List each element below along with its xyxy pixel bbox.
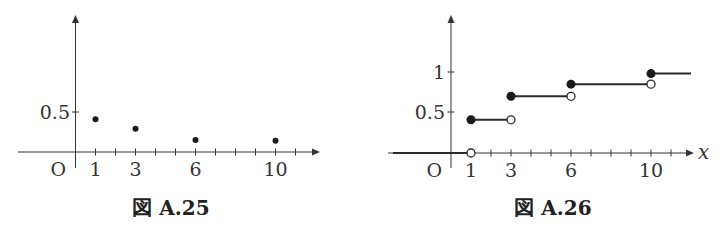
y-label-0.5: 0.5 [40,101,70,123]
x-label-6: 6 [189,158,201,180]
open-endpoint-icon [567,92,575,100]
y-label-0.5: 0.5 [415,101,445,123]
data-point [93,116,99,122]
closed-endpoint-icon [467,115,476,124]
closed-endpoint-icon [647,69,656,78]
x-label-3: 3 [129,158,141,180]
figure-caption-a25: 図 A.25 [132,196,209,220]
data-point [273,138,279,144]
y-label-1: 1 [433,61,445,83]
x-axis-variable-label: x [698,140,709,164]
pmf-chart: 0.5 O 1 3 6 10 図 A.25 [18,15,320,220]
pmf-points [93,116,279,144]
x-label-1: 1 [465,159,477,181]
cdf-chart: 0.5 1 O 1 3 6 10 x 図 A.26 [388,15,709,220]
x-label-6: 6 [565,159,577,181]
x-label-1: 1 [89,158,101,180]
open-endpoint-icon [507,116,515,124]
x-label-3: 3 [505,159,517,181]
x-axis-arrow-icon [312,149,320,156]
x-label-10: 10 [263,158,287,180]
x-axis-arrow-icon [686,150,694,157]
open-endpoint-icon [647,80,655,88]
data-point [193,137,199,143]
open-endpoint-icon [467,149,475,157]
closed-endpoint-icon [507,92,516,101]
y-axis-arrow-icon [72,15,79,23]
x-label-10: 10 [639,159,663,181]
y-axis-arrow-icon [448,15,455,23]
origin-label: O [50,158,66,180]
closed-endpoint-icon [567,80,576,89]
figure-canvas: 0.5 O 1 3 6 10 図 A.25 0.5 1 O 1 3 6 10 x… [0,0,724,232]
origin-label: O [426,159,442,181]
figure-caption-a26: 図 A.26 [514,196,591,220]
data-point [133,126,139,132]
